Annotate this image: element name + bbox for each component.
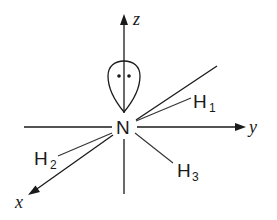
hydrogen-2: H 2: [34, 133, 112, 172]
x-axis: x: [14, 135, 113, 212]
y-axis-label: y: [247, 117, 257, 137]
y-axis-arrowhead-icon: [235, 123, 246, 131]
z-axis-label: z: [132, 9, 140, 29]
hydrogen-1: H 1: [136, 91, 216, 121]
h2-symbol: H: [34, 148, 48, 169]
h2-subscript: 2: [50, 158, 57, 172]
h3-symbol: H: [177, 160, 191, 181]
h1-symbol: H: [193, 91, 207, 112]
nh3-diagram: z y x N H 1 H 2 H 3: [0, 0, 277, 220]
x-axis-arrowhead-icon: [28, 186, 40, 196]
y-axis: y: [137, 117, 257, 137]
h1-subscript: 1: [209, 101, 216, 115]
h3-subscript: 3: [192, 170, 199, 184]
h3-bond: [135, 133, 173, 163]
z-axis-arrowhead-icon: [120, 14, 128, 25]
nitrogen-atom-label: N: [116, 117, 130, 138]
lone-pair-electron-2: [127, 74, 131, 78]
hydrogen-3: H 3: [135, 133, 199, 184]
x-axis-label: x: [14, 192, 23, 212]
h2-bond: [58, 133, 112, 156]
lone-pair-electron-1: [117, 74, 121, 78]
